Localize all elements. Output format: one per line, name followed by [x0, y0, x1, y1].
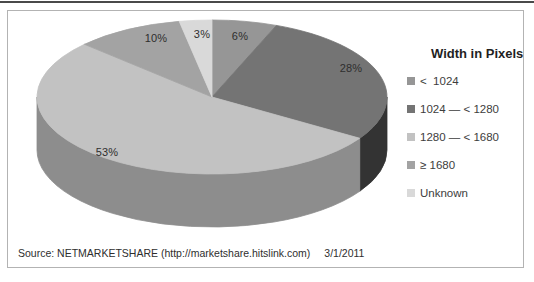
legend-swatch-icon	[407, 161, 415, 169]
legend-item-unknown: Unknown	[407, 187, 525, 199]
legend-item-label: ≥ 1680	[420, 159, 455, 171]
pie-label-unknown: 3%	[194, 28, 210, 40]
legend-item-1024-1280: 1024 — < 1280	[407, 103, 525, 115]
source-text: Source: NETMARKETSHARE (http://marketsha…	[18, 247, 310, 259]
source-date: 3/1/2011	[324, 247, 364, 259]
legend-item-lt-1024: < 1024	[407, 75, 525, 87]
legend-item-1280-1680: 1280 — < 1680	[407, 131, 525, 143]
legend-item-label: 1024 — < 1280	[420, 103, 499, 115]
legend-title: Width in Pixels	[431, 46, 525, 61]
legend-item-gte-1680: ≥ 1680	[407, 159, 525, 171]
page: 6% 28% 53% 10% 3% Width in Pixels < 1024…	[0, 0, 534, 282]
pie-label-gte-1680: 10%	[145, 32, 168, 44]
legend-swatch-icon	[407, 77, 415, 85]
pie-label-1024-1280: 28%	[340, 62, 363, 74]
legend-item-label: Unknown	[420, 187, 468, 199]
legend-swatch-icon	[407, 133, 415, 141]
source-line: Source: NETMARKETSHARE (http://marketsha…	[18, 247, 364, 259]
pie-label-1280-1680: 53%	[96, 146, 119, 158]
legend-item-label: 1280 — < 1680	[420, 131, 499, 143]
legend-swatch-icon	[407, 189, 415, 197]
pie-label-lt-1024: 6%	[232, 30, 248, 42]
legend-item-label: < 1024	[420, 75, 459, 87]
legend-swatch-icon	[407, 105, 415, 113]
legend: Width in Pixels < 1024 1024 — < 1280 128…	[407, 46, 525, 215]
